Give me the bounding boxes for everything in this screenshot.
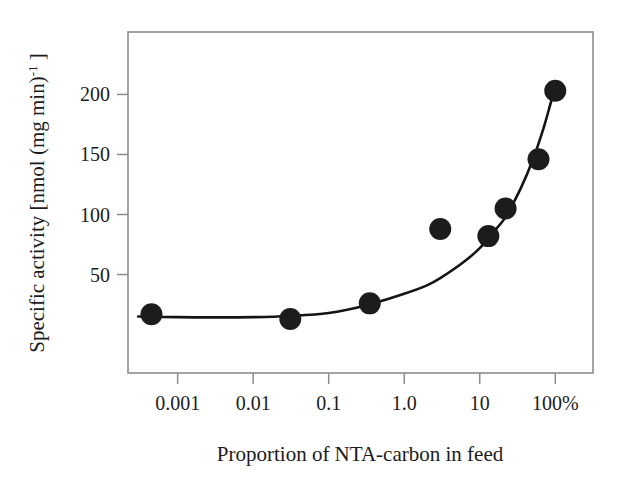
x-axis-title: Proportion of NTA-carbon in feed bbox=[217, 442, 504, 466]
y-tick-label: 150 bbox=[80, 143, 110, 165]
svg-text:Specific activity [nmol (mg mi: Specific activity [nmol (mg min)-1 ] bbox=[25, 53, 49, 353]
figure-root: 0.0010.010.11.010100% 50100150200 Propor… bbox=[0, 0, 629, 487]
data-point bbox=[528, 148, 550, 170]
data-point bbox=[495, 198, 517, 220]
data-point bbox=[140, 303, 162, 325]
data-point bbox=[429, 218, 451, 240]
data-point bbox=[477, 225, 499, 247]
y-tick-label: 200 bbox=[80, 83, 110, 105]
y-tick-label: 100 bbox=[80, 204, 110, 226]
data-point bbox=[279, 308, 301, 330]
y-axis-title-main: Specific activity [nmol (mg min) bbox=[25, 76, 49, 352]
scatter-chart: 0.0010.010.11.010100% 50100150200 Propor… bbox=[0, 0, 629, 487]
x-tick-label: 1.0 bbox=[392, 392, 417, 414]
x-tick-label: 0.1 bbox=[316, 392, 341, 414]
data-point bbox=[359, 292, 381, 314]
y-axis-title-tail: ] bbox=[25, 53, 49, 65]
x-tick-label: 0.01 bbox=[236, 392, 271, 414]
x-tick-label: 10 bbox=[470, 392, 490, 414]
x-tick-label: 100% bbox=[532, 392, 579, 414]
x-tick-label: 0.001 bbox=[155, 392, 200, 414]
y-axis-title-superscript: -1 bbox=[25, 65, 40, 76]
y-tick-label: 50 bbox=[90, 264, 110, 286]
data-point bbox=[544, 80, 566, 102]
y-axis-title: Specific activity [nmol (mg min)-1 ] bbox=[25, 53, 49, 353]
